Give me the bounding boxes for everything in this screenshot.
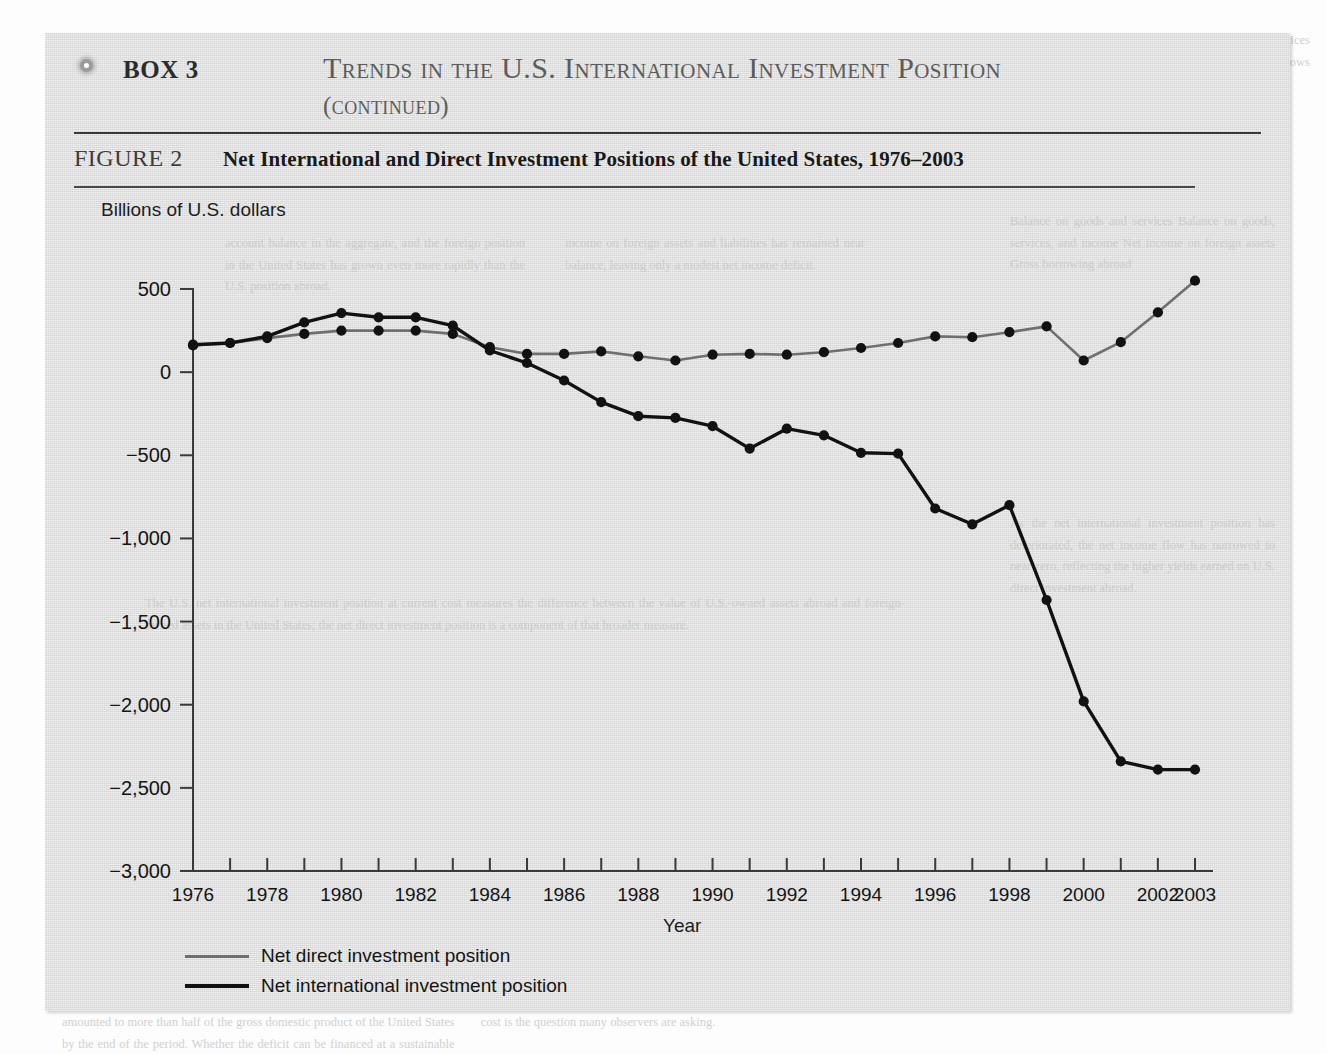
y-tick-label: −2,000 [109, 694, 171, 716]
circle-bullet-icon [80, 59, 93, 72]
x-tick-label: 2003 [1174, 884, 1216, 905]
data-point-marker [411, 326, 421, 336]
y-tick-label: −2,500 [109, 777, 171, 799]
figure-divider [74, 186, 1195, 188]
series-line-international [193, 313, 1195, 769]
data-point-marker [336, 326, 346, 336]
header-divider [74, 132, 1261, 134]
legend-item-international: Net international investment position [185, 971, 567, 1001]
x-tick-label: 1990 [691, 884, 733, 905]
data-point-marker [670, 413, 680, 423]
data-point-marker [299, 317, 309, 327]
x-tick-label: 1976 [172, 884, 214, 905]
y-tick-label: −3,000 [109, 860, 171, 882]
y-axis-ticks: 5000−500−1,000−1,500−2,000−2,500−3,000 [109, 278, 194, 882]
y-tick-label: −500 [126, 444, 171, 466]
data-point-marker [633, 351, 643, 361]
x-tick-label: 1992 [766, 884, 808, 905]
legend-item-direct: Net direct investment position [185, 941, 567, 971]
data-point-marker [930, 503, 940, 513]
data-point-marker [745, 444, 755, 454]
data-point-marker [1079, 355, 1089, 365]
data-point-marker [708, 421, 718, 431]
y-tick-label: −1,000 [109, 527, 171, 549]
data-point-marker [856, 448, 866, 458]
data-point-marker [1004, 327, 1014, 337]
data-point-marker [967, 519, 977, 529]
data-point-marker [485, 345, 495, 355]
data-point-marker [522, 358, 532, 368]
figure-label: FIGURE 2 [74, 145, 183, 172]
x-tick-label: 1994 [840, 884, 883, 905]
data-point-marker [1004, 500, 1014, 510]
background-text-bottom: amounted to more than half of the gross … [62, 1012, 1292, 1054]
data-point-marker [893, 449, 903, 459]
x-tick-label: 1980 [320, 884, 362, 905]
legend-label-direct: Net direct investment position [261, 945, 510, 967]
data-point-marker [782, 350, 792, 360]
data-point-marker [411, 312, 421, 322]
data-point-marker [856, 343, 866, 353]
data-point-marker [967, 332, 977, 342]
data-point-marker [1079, 696, 1089, 706]
x-tick-label: 1986 [543, 884, 585, 905]
data-point-marker [819, 430, 829, 440]
x-axis-ticks: 1976197819801982198419861988199019921994… [172, 858, 1216, 905]
chart-legend: Net direct investment position Net inter… [185, 941, 567, 1001]
x-tick-label: 1978 [246, 884, 288, 905]
data-point-marker [336, 308, 346, 318]
data-point-marker [819, 347, 829, 357]
data-point-marker [262, 331, 272, 341]
chart-container: Billions of U.S. dollars Year 5000−500−1… [45, 193, 1290, 993]
data-point-marker [374, 326, 384, 336]
data-series-group [188, 276, 1200, 775]
x-tick-label: 1982 [395, 884, 437, 905]
box-title: Trends in the U.S. International Investm… [323, 49, 1223, 125]
data-point-marker [1153, 765, 1163, 775]
y-tick-label: −1,500 [109, 611, 171, 633]
x-tick-label: 1984 [469, 884, 512, 905]
data-point-marker [299, 329, 309, 339]
data-point-marker [448, 321, 458, 331]
data-point-marker [633, 411, 643, 421]
box-header: BOX 3 Trends in the U.S. International I… [45, 33, 1290, 131]
data-point-marker [745, 349, 755, 359]
data-point-marker [670, 355, 680, 365]
y-tick-label: 500 [138, 278, 171, 300]
legend-swatch-direct-icon [185, 955, 249, 958]
series-line-direct [193, 281, 1195, 361]
data-point-marker [374, 312, 384, 322]
data-point-marker [1153, 307, 1163, 317]
data-point-marker [1190, 765, 1200, 775]
data-point-marker [559, 349, 569, 359]
data-point-marker [1116, 337, 1126, 347]
x-tick-label: 1988 [617, 884, 659, 905]
data-point-marker [708, 350, 718, 360]
data-point-marker [559, 375, 569, 385]
data-point-marker [188, 340, 198, 350]
data-point-marker [893, 338, 903, 348]
legend-swatch-international-icon [185, 984, 249, 988]
x-axis-title: Year [663, 915, 701, 937]
data-point-marker [1042, 595, 1052, 605]
line-chart-plot: 5000−500−1,000−1,500−2,000−2,500−3,000 1… [45, 193, 1290, 913]
x-tick-label: 1998 [988, 884, 1030, 905]
legend-label-international: Net international investment position [261, 975, 567, 997]
data-point-marker [1116, 756, 1126, 766]
box-label: BOX 3 [123, 56, 199, 84]
data-point-marker [596, 397, 606, 407]
data-point-marker [782, 424, 792, 434]
box-title-main: Trends in the U.S. International Investm… [323, 51, 1001, 84]
data-point-marker [596, 346, 606, 356]
data-point-marker [930, 331, 940, 341]
box-panel: account balance in the aggregate, and th… [45, 33, 1290, 1011]
y-tick-label: 0 [160, 361, 171, 383]
data-point-marker [225, 338, 235, 348]
x-tick-label: 2000 [1063, 884, 1105, 905]
figure-title: Net International and Direct Investment … [223, 147, 964, 172]
box-title-continued: (continued) [323, 87, 1223, 125]
x-tick-label: 2002 [1137, 884, 1179, 905]
data-point-marker [1042, 321, 1052, 331]
data-point-marker [1190, 276, 1200, 286]
x-tick-label: 1996 [914, 884, 956, 905]
